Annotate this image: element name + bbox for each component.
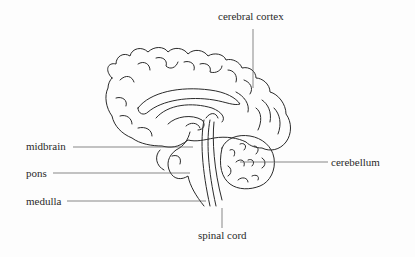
label-cerebellum: cerebellum: [331, 157, 380, 168]
brainstem: [168, 132, 204, 206]
label-pons: pons: [26, 168, 47, 179]
diagram-canvas: cerebral cortex midbrain pons medulla ce…: [0, 0, 415, 257]
corpus-callosum: [138, 89, 240, 114]
label-medulla: medulla: [26, 196, 61, 207]
brain-illustration: [0, 0, 415, 257]
label-midbrain: midbrain: [26, 141, 66, 152]
label-cerebral-cortex: cerebral cortex: [218, 11, 284, 22]
label-spinal-cord: spinal cord: [198, 230, 247, 241]
